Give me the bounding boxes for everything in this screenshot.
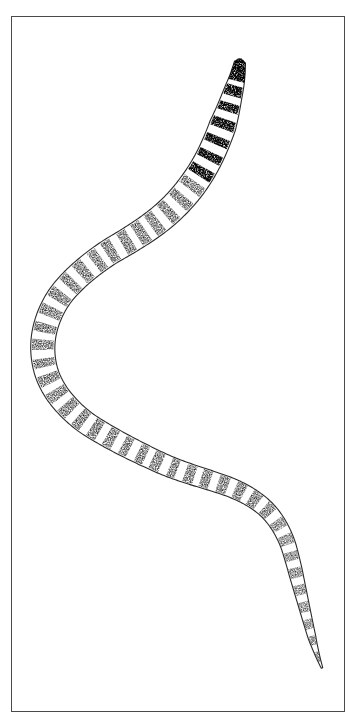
nematode-larva-illustration (0, 0, 355, 728)
larva-body-fill (31, 61, 323, 668)
larva-body-outline (31, 61, 323, 668)
figure-root (0, 0, 355, 728)
larva-segment-bands (32, 83, 321, 662)
